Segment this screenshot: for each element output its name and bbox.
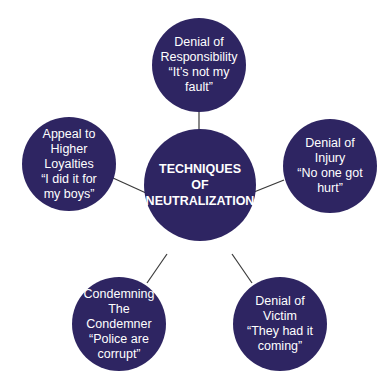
node-label-line: “I did it for [41,172,97,187]
node-label-line: The [84,302,155,317]
center-node-label: TECHNIQUES OF NEUTRALIZATION [140,161,261,209]
node-label-line: Denial of [297,136,362,151]
node-denial-of-injury: Denial of Injury “No one got hurt” [283,119,377,213]
node-label-line: “Police are [84,332,155,347]
connector-bottom-left [147,254,167,283]
node-label-line: corrupt” [84,347,155,362]
node-label-line: Denial of [160,35,237,50]
node-label-line: hurt” [297,181,362,196]
center-label-line: OF [146,177,255,193]
node-label-line: Responsibility [160,50,237,65]
node-label-line: my boys” [41,187,97,202]
node-label: Denial of Responsibility “It’s not my fa… [154,35,243,95]
node-label-line: Injury [297,151,362,166]
node-label-line: “They had it [247,324,313,339]
node-label-line: Higher [41,142,97,157]
node-appeal-to-higher-loyalties: Appeal to Higher Loyalties “I did it for… [22,117,116,211]
node-denial-of-victim: Denial of Victim “They had it coming” [233,277,327,371]
node-label-line: coming” [247,339,313,354]
node-label-line: Condemner [84,317,155,332]
node-label: Condemning The Condemner “Police are cor… [78,287,161,362]
node-condemning-the-condemner: Condemning The Condemner “Police are cor… [72,277,166,371]
node-denial-of-responsibility: Denial of Responsibility “It’s not my fa… [152,18,246,112]
node-label-line: Appeal to [41,127,97,142]
node-label: Appeal to Higher Loyalties “I did it for… [35,127,103,202]
node-label-line: “It’s not my [160,65,237,80]
center-label-line: TECHNIQUES [146,161,255,177]
node-label: Denial of Victim “They had it coming” [241,294,319,354]
node-label: Denial of Injury “No one got hurt” [291,136,368,196]
node-label-line: “No one got [297,166,362,181]
node-label-line: Loyalties [41,157,97,172]
connector-bottom-right [232,254,252,283]
node-label-line: Condemning [84,287,155,302]
node-label-line: Victim [247,309,313,324]
center-label-line: NEUTRALIZATION [146,193,255,209]
center-node-techniques-of-neutralization: TECHNIQUES OF NEUTRALIZATION [144,129,256,241]
node-label-line: Denial of [247,294,313,309]
node-label-line: fault” [160,80,237,95]
